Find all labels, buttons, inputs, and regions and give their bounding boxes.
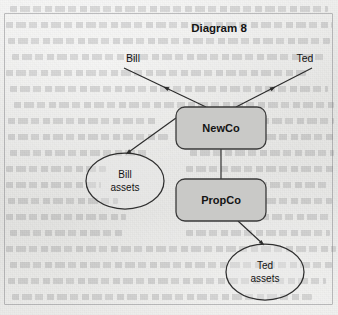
node-ted-assets-label-line: assets	[251, 273, 280, 284]
node-bill-assets[interactable]: Billassets	[86, 153, 164, 209]
figure-title: Diagram 8	[191, 22, 247, 34]
diagram-canvas: NewCoPropCo BillassetsTedassets BillTed …	[0, 0, 338, 315]
node-ted-assets-label-line: Ted	[257, 260, 273, 271]
node-bill-assets-label-line: Bill	[118, 169, 131, 180]
node-propco-label: PropCo	[201, 194, 241, 206]
node-ted-assets-shape	[226, 244, 304, 300]
node-bill-assets-shape	[86, 153, 164, 209]
node-newco[interactable]: NewCo	[176, 107, 266, 149]
arrow-head-icon	[163, 87, 169, 91]
connector-newco-to-bill	[124, 68, 206, 107]
connector-newco-to-ted	[236, 68, 312, 107]
person-labels-group: BillTed	[126, 52, 314, 64]
connector-propco-to-ted-assets	[238, 221, 264, 245]
person-label-ted: Ted	[297, 52, 314, 64]
node-ted-assets[interactable]: Tedassets	[226, 244, 304, 300]
arrow-head-icon	[270, 87, 276, 91]
node-newco-label: NewCo	[202, 122, 240, 134]
node-propco[interactable]: PropCo	[176, 179, 266, 221]
node-bill-assets-label-line: assets	[111, 182, 140, 193]
asset-ellipses-group: BillassetsTedassets	[86, 153, 304, 300]
connector-newco-to-bill-assets	[126, 118, 176, 154]
diagram-page: NewCoPropCo BillassetsTedassets BillTed …	[0, 0, 338, 315]
person-label-bill: Bill	[126, 52, 140, 64]
